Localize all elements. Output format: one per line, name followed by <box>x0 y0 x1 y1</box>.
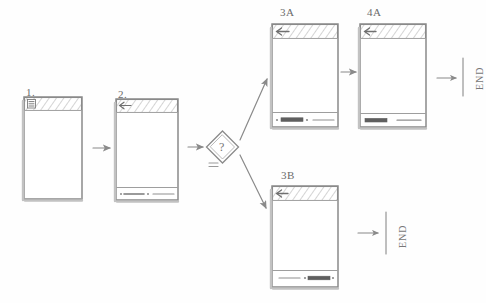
decision-node[interactable] <box>207 131 239 167</box>
screen-2[interactable] <box>115 99 178 202</box>
screen-4a[interactable] <box>359 24 426 129</box>
arrow-decision-to-3a <box>240 79 267 140</box>
footer-dot-b <box>147 193 149 195</box>
screen-4a-body <box>361 39 426 114</box>
footer-dot-a <box>304 277 306 279</box>
screen-3a[interactable] <box>271 24 338 129</box>
footer-filled-bar <box>365 118 387 122</box>
arrow-decision-to-3b <box>240 155 266 208</box>
footer-filled-bar <box>281 118 303 122</box>
screen-2-body <box>117 113 178 188</box>
footer-dot <box>120 193 122 195</box>
decision-diamond-shape <box>207 131 239 163</box>
wireframe-canvas <box>0 0 486 303</box>
footer-dot-b <box>332 277 334 279</box>
screen-3b[interactable] <box>271 186 338 289</box>
footer-dot-a <box>276 119 278 121</box>
screen-3b-body <box>273 201 338 271</box>
screen-1[interactable] <box>23 97 82 201</box>
footer-filled-bar <box>308 276 330 280</box>
screen-3a-body <box>273 39 338 113</box>
footer-dot-b <box>306 119 308 121</box>
hamburger-menu-icon[interactable] <box>28 100 36 109</box>
screen-1-body <box>25 111 82 199</box>
